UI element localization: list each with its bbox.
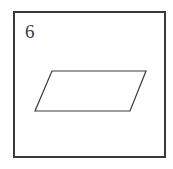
outer-rectangle-border	[13, 11, 166, 158]
item-number-label: 6	[25, 22, 35, 42]
figure-canvas: 6	[0, 0, 173, 169]
